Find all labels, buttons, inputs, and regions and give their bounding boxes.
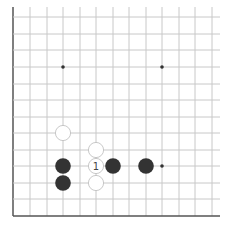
white-stone[interactable] bbox=[88, 142, 103, 157]
white-stone[interactable]: 1 bbox=[88, 158, 103, 173]
black-stone[interactable] bbox=[55, 158, 71, 174]
black-stone[interactable] bbox=[105, 158, 121, 174]
black-stone[interactable] bbox=[55, 175, 71, 191]
star-point-icon bbox=[61, 65, 65, 69]
star-point-icon bbox=[160, 65, 164, 69]
move-number-label: 1 bbox=[93, 161, 99, 172]
white-stone[interactable] bbox=[55, 125, 70, 140]
black-stone[interactable] bbox=[138, 158, 154, 174]
white-stone[interactable] bbox=[88, 175, 103, 190]
go-board[interactable]: 1 bbox=[0, 0, 230, 227]
board-grid bbox=[13, 7, 220, 216]
star-point-icon bbox=[160, 164, 164, 168]
stones-layer: 1 bbox=[55, 125, 154, 190]
